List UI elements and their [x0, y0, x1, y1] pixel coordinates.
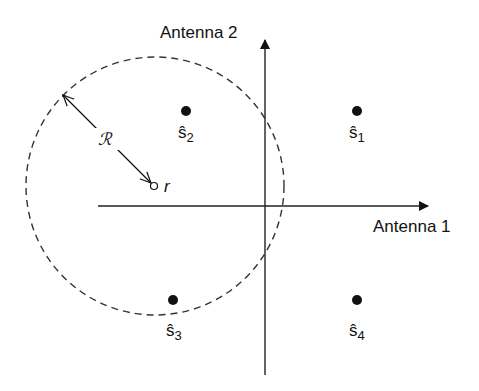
diagram-canvas: Antenna 2 Antenna 1 ℛ r ŝ1 ŝ2 ŝ3 ŝ4	[0, 0, 479, 391]
symbol-s2-hat: ŝ	[178, 123, 187, 142]
radius-label: ℛ	[98, 130, 113, 149]
symbol-s3-sub: 3	[175, 328, 182, 343]
symbol-s1-label: ŝ1	[349, 123, 365, 145]
symbol-s3-dot	[168, 295, 178, 305]
symbol-s2-dot	[181, 106, 191, 116]
received-point	[151, 183, 158, 190]
received-point-label: r	[164, 177, 171, 196]
y-axis-label: Antenna 2	[160, 23, 238, 42]
symbol-s1-sub: 1	[358, 130, 365, 145]
symbol-s4-sub: 4	[358, 328, 365, 343]
symbol-s3-hat: ŝ	[166, 321, 175, 340]
symbol-s4-label: ŝ4	[349, 321, 365, 343]
symbol-s2-label: ŝ2	[178, 123, 194, 145]
x-axis-label: Antenna 1	[373, 217, 451, 236]
symbol-s3-label: ŝ3	[166, 321, 182, 343]
symbol-s4-dot	[352, 295, 362, 305]
symbol-s2-sub: 2	[187, 130, 194, 145]
symbol-s1-hat: ŝ	[349, 123, 358, 142]
symbol-s4-hat: ŝ	[349, 321, 358, 340]
symbol-s1-dot	[352, 106, 362, 116]
